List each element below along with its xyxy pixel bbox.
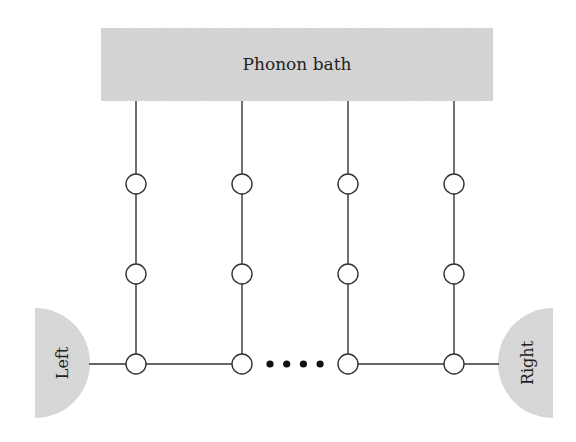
right-lead-label: Right (518, 340, 537, 385)
diagram-canvas: Phonon bath Left Right (0, 0, 576, 442)
right-lead: Right (498, 308, 553, 418)
site-nodes (126, 174, 464, 374)
phonon-bath-label: Phonon bath (243, 54, 352, 74)
site-node (232, 264, 252, 284)
ellipsis-dot (300, 360, 307, 367)
phonon-bath: Phonon bath (101, 28, 493, 101)
site-node (444, 354, 464, 374)
site-node (444, 264, 464, 284)
site-node (338, 264, 358, 284)
site-node (444, 174, 464, 194)
ellipsis-dot (317, 360, 324, 367)
site-node (126, 264, 146, 284)
site-node (338, 174, 358, 194)
ellipsis-dot (283, 360, 290, 367)
ellipsis-dot (266, 360, 273, 367)
site-node (126, 354, 146, 374)
site-node (232, 354, 252, 374)
left-lead-label: Left (53, 346, 72, 379)
connection-lines (89, 101, 499, 364)
site-node (338, 354, 358, 374)
site-node (232, 174, 252, 194)
site-node (126, 174, 146, 194)
ellipsis-dots (266, 360, 323, 367)
left-lead: Left (35, 308, 90, 418)
